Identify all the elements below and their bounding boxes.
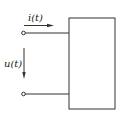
network-box — [69, 18, 115, 109]
top-terminal-icon — [22, 31, 26, 35]
voltage-arrow-icon — [22, 48, 25, 79]
current-arrow-icon — [24, 24, 54, 27]
current-label: i(t) — [28, 12, 43, 23]
bottom-terminal-icon — [22, 92, 26, 96]
circuit-diagram: i(t) u(t) — [0, 0, 120, 127]
voltage-label: u(t) — [4, 58, 22, 69]
